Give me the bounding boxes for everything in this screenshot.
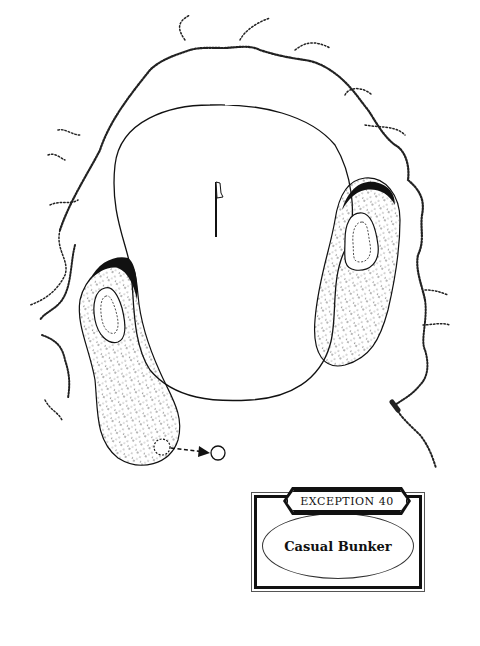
caption-header: EXCEPTION 40	[286, 490, 408, 512]
caption-oval: Casual Bunker	[262, 513, 414, 579]
ball-relief-position	[211, 446, 225, 460]
relief-arrow	[171, 446, 210, 457]
caption-title: Casual Bunker	[284, 539, 391, 554]
ball-original-position	[154, 439, 170, 455]
